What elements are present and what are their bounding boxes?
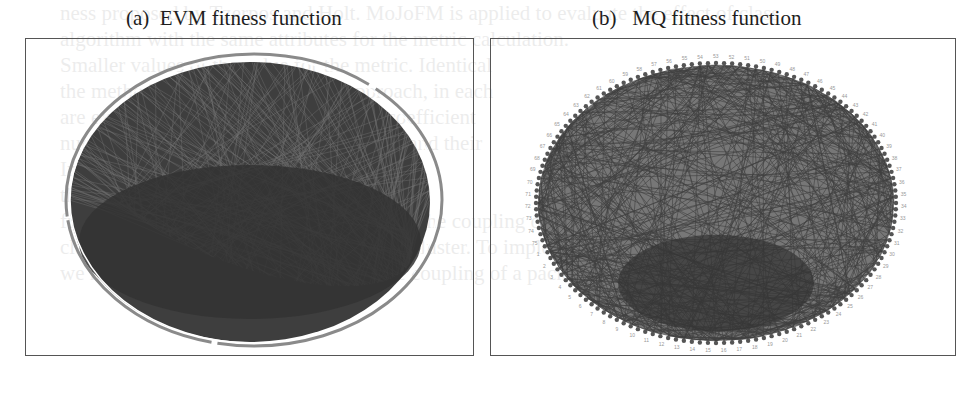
svg-text:54: 54	[697, 54, 703, 60]
svg-text:55: 55	[682, 55, 688, 61]
svg-text:20: 20	[782, 337, 788, 343]
svg-text:19: 19	[767, 341, 773, 347]
svg-text:61: 61	[596, 85, 602, 91]
svg-text:15: 15	[705, 347, 711, 353]
svg-text:16: 16	[721, 347, 727, 353]
svg-text:30: 30	[889, 251, 895, 257]
svg-text:36: 36	[899, 179, 905, 185]
svg-text:23: 23	[824, 319, 830, 325]
svg-text:50: 50	[760, 58, 766, 64]
svg-text:11: 11	[644, 337, 649, 343]
svg-text:74: 74	[528, 228, 534, 234]
svg-text:63: 63	[573, 102, 579, 108]
svg-text:31: 31	[894, 240, 900, 246]
svg-text:59: 59	[622, 71, 628, 77]
svg-text:39: 39	[886, 143, 892, 149]
svg-text:70: 70	[527, 179, 533, 185]
svg-text:12: 12	[659, 341, 665, 347]
svg-text:13: 13	[674, 344, 680, 350]
svg-text:29: 29	[883, 263, 889, 269]
svg-text:58: 58	[637, 66, 643, 72]
svg-text:5: 5	[568, 294, 571, 300]
svg-text:38: 38	[892, 155, 898, 161]
svg-text:68: 68	[534, 155, 540, 161]
svg-text:22: 22	[810, 326, 816, 332]
caption-panel-a: (a) EVM fitness function	[126, 6, 342, 31]
caption-panel-b: (b) MQ fitness function	[592, 6, 801, 31]
svg-text:1: 1	[537, 251, 540, 257]
svg-text:53: 53	[713, 53, 719, 59]
svg-text:2: 2	[543, 263, 546, 269]
svg-text:49: 49	[775, 61, 781, 67]
svg-text:41: 41	[872, 121, 878, 127]
svg-text:37: 37	[896, 166, 902, 172]
svg-text:60: 60	[609, 78, 615, 84]
panel-evm-graph	[25, 38, 474, 356]
evm-circular-graph	[26, 39, 473, 355]
svg-text:6: 6	[579, 303, 582, 309]
svg-text:42: 42	[863, 111, 869, 117]
svg-text:14: 14	[689, 346, 695, 352]
svg-text:32: 32	[898, 228, 904, 234]
svg-text:75: 75	[532, 240, 538, 246]
svg-text:67: 67	[540, 143, 546, 149]
svg-text:24: 24	[836, 311, 842, 317]
svg-text:47: 47	[804, 71, 810, 77]
svg-text:44: 44	[842, 93, 848, 99]
svg-text:71: 71	[525, 191, 531, 197]
svg-text:65: 65	[554, 121, 560, 127]
svg-text:8: 8	[602, 319, 605, 325]
svg-text:25: 25	[847, 303, 853, 309]
svg-text:56: 56	[666, 58, 672, 64]
svg-text:43: 43	[853, 102, 859, 108]
svg-text:18: 18	[752, 344, 758, 350]
svg-text:48: 48	[789, 66, 795, 72]
svg-text:35: 35	[901, 191, 907, 197]
svg-text:45: 45	[830, 85, 836, 91]
svg-text:66: 66	[546, 132, 552, 138]
svg-text:72: 72	[525, 203, 531, 209]
svg-text:46: 46	[817, 78, 823, 84]
svg-text:3: 3	[550, 274, 553, 280]
svg-text:64: 64	[563, 111, 569, 117]
svg-text:4: 4	[559, 284, 562, 290]
svg-text:26: 26	[858, 294, 864, 300]
svg-text:9: 9	[616, 326, 619, 332]
svg-text:51: 51	[744, 55, 750, 61]
svg-text:27: 27	[867, 284, 873, 290]
panel-mq-graph: 5352515049484746454443424140393837363534…	[490, 38, 956, 356]
svg-text:40: 40	[880, 132, 886, 138]
svg-text:10: 10	[629, 332, 635, 338]
svg-text:34: 34	[901, 203, 907, 209]
svg-text:52: 52	[729, 54, 735, 60]
svg-text:28: 28	[876, 274, 882, 280]
svg-text:73: 73	[526, 215, 532, 221]
svg-text:33: 33	[900, 215, 906, 221]
svg-text:21: 21	[797, 332, 803, 338]
mq-circular-graph: 5352515049484746454443424140393837363534…	[491, 39, 955, 355]
svg-text:57: 57	[651, 61, 657, 67]
svg-text:69: 69	[530, 166, 536, 172]
svg-text:7: 7	[590, 311, 593, 317]
svg-text:17: 17	[737, 346, 743, 352]
svg-text:62: 62	[584, 93, 590, 99]
